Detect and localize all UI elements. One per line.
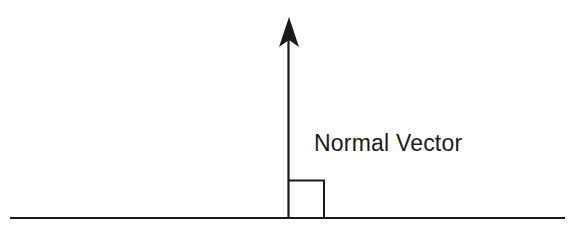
right-angle-marker (289, 181, 325, 219)
normal-vector-label: Normal Vector (314, 130, 462, 157)
normal-vector-diagram (0, 0, 585, 234)
